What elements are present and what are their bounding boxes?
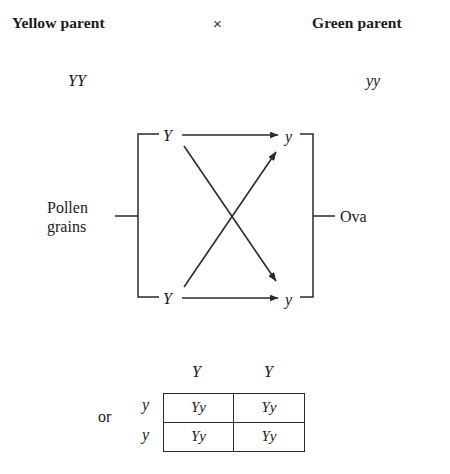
- punnett-or-label: or: [98, 408, 111, 426]
- punnett-row-header-1: y: [142, 426, 149, 444]
- punnett-column-header-0: Y: [192, 363, 201, 381]
- gamete-ovum-top: y: [285, 128, 292, 146]
- punnett-square-grid: Yy Yy Yy Yy: [163, 393, 305, 452]
- arrow-diagonal-up: [184, 152, 276, 287]
- right-bracket: [300, 134, 335, 297]
- arrow-diagonal-down: [184, 146, 276, 281]
- punnett-cell: Yy: [234, 423, 304, 452]
- ova-label: Ova: [340, 207, 367, 226]
- punnett-cell: Yy: [164, 423, 234, 452]
- left-bracket: [115, 134, 159, 297]
- gamete-ovum-bottom: y: [285, 291, 292, 309]
- punnett-cell: Yy: [164, 394, 234, 423]
- gamete-pollen-top: Y: [163, 127, 172, 145]
- punnett-column-header-1: Y: [264, 363, 273, 381]
- punnett-row-header-0: y: [142, 396, 149, 414]
- punnett-cross-figure: Yellow parent × Green parent YY yy: [0, 0, 450, 474]
- pollen-grains-label-line1: Pollen: [47, 198, 88, 217]
- gamete-pollen-bottom: Y: [163, 290, 172, 308]
- punnett-cell: Yy: [234, 394, 304, 423]
- pollen-grains-label-line2: grains: [47, 217, 88, 236]
- pollen-grains-label: Pollen grains: [47, 198, 88, 236]
